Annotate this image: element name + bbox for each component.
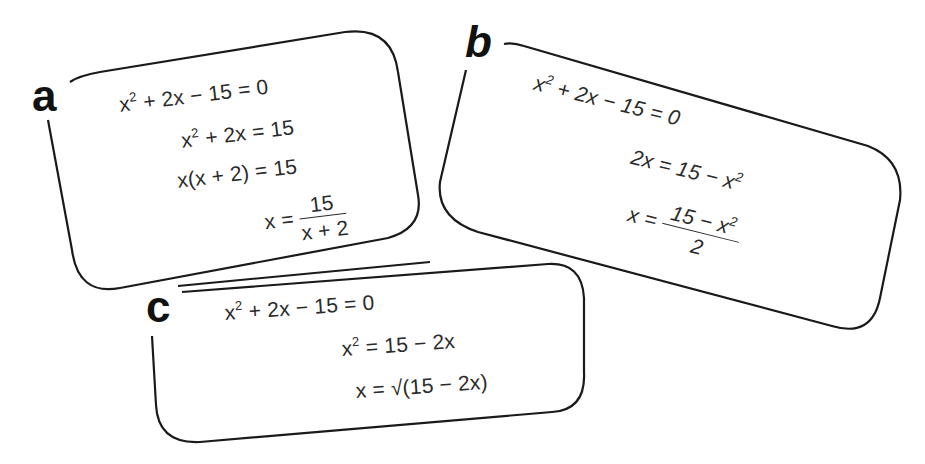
card-a-border — [48, 31, 419, 289]
card-a-line-4: x = 15x + 2 — [262, 190, 350, 248]
card-b-border — [440, 43, 901, 328]
fraction: 15x + 2 — [297, 190, 350, 243]
card-a-label: a — [32, 74, 56, 118]
card-b-label: b — [465, 20, 492, 64]
card-c-label: c — [146, 285, 170, 329]
